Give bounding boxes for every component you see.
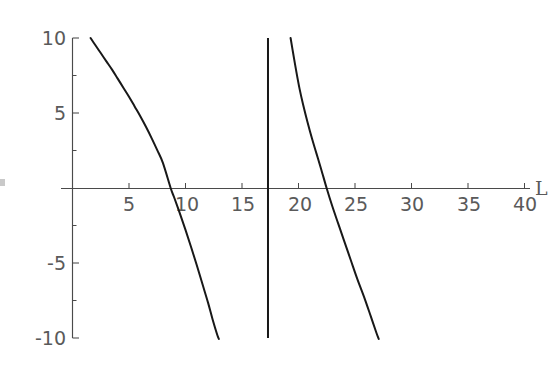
x-tick-label-15: 15 bbox=[231, 193, 255, 215]
left-edge-artifact bbox=[0, 179, 5, 186]
x-tick-label-25: 25 bbox=[344, 193, 368, 215]
y-tick-label-10: 10 bbox=[42, 27, 66, 49]
plot-svg: 5 10 15 20 25 30 35 40 10 5 -5 -10 L bbox=[0, 0, 558, 367]
x-axis-title: L bbox=[535, 177, 548, 199]
y-tick-label-neg5: -5 bbox=[47, 252, 66, 274]
x-tick-label-30: 30 bbox=[400, 193, 424, 215]
y-tick-label-neg10: -10 bbox=[35, 327, 66, 349]
x-tick-label-5: 5 bbox=[123, 193, 135, 215]
x-tick-label-20: 20 bbox=[288, 193, 312, 215]
plot-figure: 5 10 15 20 25 30 35 40 10 5 -5 -10 L bbox=[0, 0, 558, 367]
x-tick-label-35: 35 bbox=[457, 193, 481, 215]
y-tick-label-5: 5 bbox=[54, 102, 66, 124]
x-tick-label-40: 40 bbox=[513, 193, 537, 215]
figure-background bbox=[0, 0, 558, 367]
